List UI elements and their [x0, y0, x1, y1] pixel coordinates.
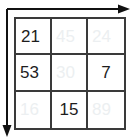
grid-cell-r3c2: 15 — [52, 92, 88, 128]
cell-value: 7 — [101, 64, 110, 81]
grid-cell-r1c1: 21 — [16, 19, 52, 55]
grid-cell-r3c1: 16 — [16, 92, 52, 128]
grid-cell-r2c2: 30 — [52, 55, 88, 91]
number-grid: 21 45 24 53 30 7 16 15 89 — [14, 17, 126, 130]
grid-cell-r3c3: 89 — [88, 92, 124, 128]
cell-value: 89 — [92, 101, 111, 118]
grid-cell-r1c2: 45 — [52, 19, 88, 55]
grid-cell-r1c3: 24 — [88, 19, 124, 55]
cell-value: 15 — [60, 101, 79, 118]
cell-value: 21 — [21, 28, 40, 45]
cell-value: 45 — [56, 28, 75, 45]
grid-cell-r2c3: 7 — [88, 55, 124, 91]
cell-value: 16 — [20, 101, 39, 118]
cell-value: 30 — [56, 64, 75, 81]
cell-value: 24 — [92, 28, 111, 45]
top-axis-arrow — [7, 5, 130, 14]
cell-value: 53 — [20, 64, 39, 81]
grid-cell-r2c1: 53 — [16, 55, 52, 91]
figure-canvas: 21 45 24 53 30 7 16 15 89 — [0, 0, 133, 138]
arrowhead-right-icon — [118, 5, 130, 14]
arrowhead-down-icon — [3, 125, 12, 137]
left-axis-arrow — [3, 9, 12, 137]
